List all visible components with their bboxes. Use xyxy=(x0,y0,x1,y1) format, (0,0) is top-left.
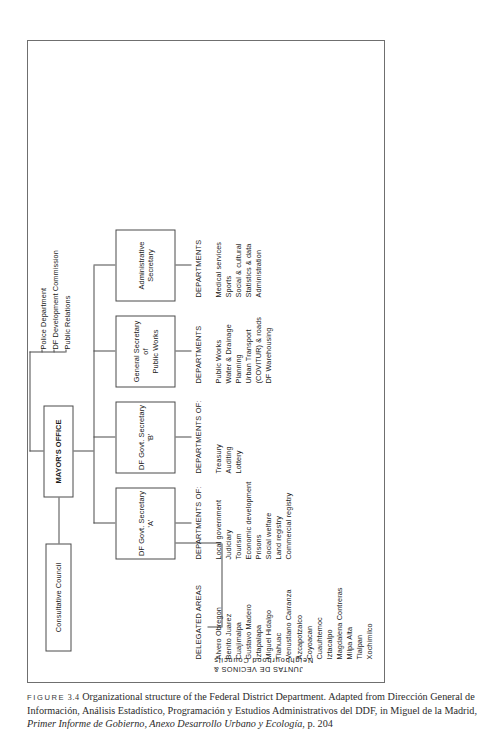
delegated-areas-list: Alvero ObregonBenito JuarezCuajimalpaGus… xyxy=(213,587,374,659)
connector-to-secretary-b xyxy=(93,436,115,437)
connector-secretaries-bus xyxy=(93,265,94,523)
connector-mayor-spine-up xyxy=(29,450,43,451)
list-item: Xochimilco xyxy=(364,587,374,659)
list-item: Land registry xyxy=(273,481,283,559)
list-item: Medical services xyxy=(213,241,223,297)
list-item: Social & cultural xyxy=(233,241,243,297)
list-item: Local government xyxy=(213,481,223,559)
df-govt-secretary-a-line1: DF Govt. Secretary xyxy=(136,490,145,555)
column-heading-departments-of-a: DEPARTMENTS OF: xyxy=(193,486,203,559)
departments-of-b-list: TreasuryAuditingLottery xyxy=(213,444,243,473)
public-works-line1: General Secretary xyxy=(131,320,140,382)
list-item: Auditing xyxy=(223,444,233,473)
list-item: Public Works xyxy=(213,316,223,383)
column-heading-departments-administrative: DEPARTMENTS xyxy=(193,239,203,297)
list-item: (COVITUR) & roads xyxy=(253,316,263,383)
list-item: Water & Drainage xyxy=(223,316,233,383)
node-df-govt-secretary-b: DF Govt. Secretary 'B' xyxy=(115,401,175,473)
caption-text-italic: Primer Informe de Gobierno, Anexo Desarr… xyxy=(27,718,302,729)
list-item: Gustavo Madero xyxy=(243,587,253,659)
list-item: Benito Juarez xyxy=(223,587,233,659)
connector-council-to-mayor xyxy=(58,497,59,543)
list-item: Tlalpan xyxy=(354,587,364,659)
list-item: Milpa Alta xyxy=(344,587,354,659)
connector-stub-dev-commission xyxy=(41,351,53,352)
node-df-govt-secretary-a: DF Govt. Secretary 'A' xyxy=(115,487,175,559)
connector-to-secretary-a xyxy=(93,522,115,523)
org-chart-canvas: Consultative Council MAYOR'S OFFICE Poli… xyxy=(27,40,385,683)
list-item: Statistics & data xyxy=(243,241,253,297)
public-works-line3: Public Works xyxy=(150,329,159,373)
caption-text-part2: , p. 204 xyxy=(302,718,333,729)
list-item: Sports xyxy=(223,241,233,297)
df-govt-secretary-a-line2: 'A' xyxy=(145,519,154,527)
list-item: Cuajimalpa xyxy=(233,587,243,659)
list-item: Urban Transport xyxy=(243,316,253,383)
list-item: Lottery xyxy=(233,444,243,473)
column-heading-delegated-areas: DELEGATED AREAS xyxy=(193,584,203,659)
administrative-secretary-line2: Secretary xyxy=(145,249,154,282)
connector-to-administrative-secretary xyxy=(93,264,115,265)
caption-text-part1: Organizational structure of the Federal … xyxy=(27,691,477,716)
mayors-office-label: MAYOR'S OFFICE xyxy=(53,419,62,483)
departments-of-a-list: Local governmentJudiciaryTourismEconomic… xyxy=(213,481,294,559)
delegated-areas-side-label: JUNTAS DE VECINOS & Neighbourhood Counci… xyxy=(213,661,254,673)
list-item: Economic development xyxy=(243,481,253,559)
list-item: Iztacalpo xyxy=(324,587,334,659)
list-item: Commercial registry xyxy=(283,481,293,559)
connector-secretary-b-down xyxy=(175,436,191,437)
figure-label: FIGURE xyxy=(27,693,65,702)
node-mayors-office: MAYOR'S OFFICE xyxy=(43,405,73,497)
connector-administrative-down xyxy=(175,264,191,265)
connector-mayor-down xyxy=(73,450,93,451)
connector-stub-pr-arm xyxy=(65,349,66,352)
list-item: DF Warehousing xyxy=(263,316,273,383)
list-item: Venustiano Carranza xyxy=(283,587,293,659)
list-item: Miguel Hidalgo xyxy=(263,587,273,659)
consultative-council-label: Consultative Council xyxy=(53,562,62,631)
connector-stub-police-arm xyxy=(41,349,42,352)
connector-public-works-down xyxy=(175,350,191,351)
list-item: Prisons xyxy=(253,481,263,559)
connector-stub-police xyxy=(29,351,41,352)
administrative-secretary-line1: Administrative xyxy=(136,241,145,289)
list-item: Tlahuac xyxy=(273,587,283,659)
df-govt-secretary-b-line2: 'B' xyxy=(145,433,154,441)
list-item: Planning xyxy=(233,316,243,383)
direct-report-public-relations: Public Relations xyxy=(62,295,72,349)
public-works-line2: of xyxy=(140,348,149,354)
figure-number: 3.4 xyxy=(68,693,80,702)
connector-to-public-works xyxy=(93,350,115,351)
column-heading-departments-of-b: DEPARTMENTS OF: xyxy=(193,400,203,473)
list-item: Alvero Obregon xyxy=(213,587,223,659)
list-item: Administration xyxy=(253,241,263,297)
connector-secretary-a-down xyxy=(175,522,191,523)
figure-frame: Consultative Council MAYOR'S OFFICE Poli… xyxy=(27,40,385,683)
side-label-line-neighbourhood: Neighbourhood Councils xyxy=(213,654,313,664)
list-item: Social welfare xyxy=(263,481,273,559)
figure-caption: FIGURE 3.4 Organizational structure of t… xyxy=(27,690,477,729)
node-administrative-secretary: Administrative Secretary xyxy=(115,229,175,301)
list-item: Tourism xyxy=(233,481,243,559)
column-heading-departments-public-works: DEPARTMENTS xyxy=(193,325,203,383)
node-general-secretary-public-works: General Secretary of Public Works xyxy=(115,315,175,387)
list-item: Treasury xyxy=(213,444,223,473)
list-item: Iztapalapa xyxy=(253,587,263,659)
direct-report-df-development-commission: DF Development Commission xyxy=(50,250,60,349)
list-item: Magdalena Contreras xyxy=(334,587,344,659)
departments-public-works-list: Public WorksWater & DrainagePlanningUrba… xyxy=(213,316,273,383)
node-consultative-council: Consultative Council xyxy=(45,543,71,651)
connector-stub-public-relations xyxy=(53,351,65,352)
departments-administrative-list: Medical servicesSportsSocial & culturalS… xyxy=(213,241,263,297)
direct-report-police-department: Police Department xyxy=(38,287,48,349)
list-item: Coyoacan xyxy=(304,587,314,659)
connector-stub-dev-arm xyxy=(53,349,54,352)
org-chart-rotation-wrapper: Consultative Council MAYOR'S OFFICE Poli… xyxy=(27,40,385,683)
list-item: Judiciary xyxy=(223,481,233,559)
list-item: Azcapotzalco xyxy=(294,587,304,659)
list-item: Cuauhtemoc xyxy=(314,587,324,659)
connector-mayor-stub-bus xyxy=(29,352,30,452)
df-govt-secretary-b-line1: DF Govt. Secretary xyxy=(136,404,145,469)
